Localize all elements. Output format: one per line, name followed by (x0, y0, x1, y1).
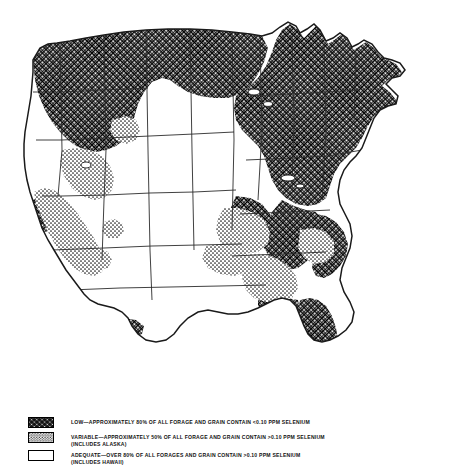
united-states-map (0, 0, 456, 400)
legend-label-adequate-wrap: ADEQUATE—OVER 80% OF ALL FORAGES AND GRA… (71, 450, 300, 465)
legend-label-low: LOW—APPROXIMATELY 80% OF ALL FORAGE AND … (71, 417, 310, 426)
legend-sublabel-adequate: (INCLUDES HAWAII) (71, 459, 300, 466)
selenium-map-figure: LOW—APPROXIMATELY 80% OF ALL FORAGE AND … (0, 0, 456, 468)
legend-swatch-blank (28, 450, 54, 461)
legend-label-adequate: ADEQUATE—OVER 80% OF ALL FORAGES AND GRA… (71, 452, 300, 458)
legend-label-variable-wrap: VARIABLE—APPROXIMATELY 50% OF ALL FORAGE… (71, 432, 325, 447)
legend-entry-adequate: ADEQUATE—OVER 80% OF ALL FORAGES AND GRA… (28, 450, 300, 465)
legend-entry-variable: VARIABLE—APPROXIMATELY 50% OF ALL FORAGE… (28, 432, 325, 447)
legend-sublabel-variable: (INCLUDES ALASKA) (71, 441, 325, 448)
legend-swatch-stipple (28, 432, 54, 443)
legend-entry-low: LOW—APPROXIMATELY 80% OF ALL FORAGE AND … (28, 417, 310, 428)
legend-label-variable: VARIABLE—APPROXIMATELY 50% OF ALL FORAGE… (71, 434, 325, 440)
legend-swatch-crosshatch (28, 417, 54, 428)
map-legend: LOW—APPROXIMATELY 80% OF ALL FORAGE AND … (0, 408, 456, 468)
map-area (0, 0, 456, 400)
